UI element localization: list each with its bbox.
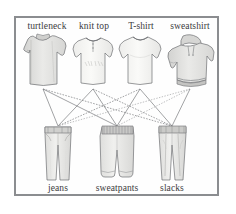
label-sweatpants: sweatpants [85,183,149,193]
garment-sweatpants [100,126,134,177]
figure-artwork [0,0,236,214]
outfit-combination-figure: turtleneck knit top T-shirt sweatshirt j… [0,0,236,214]
label-slacks: slacks [147,183,197,193]
edge-knittop-sweatpants [93,89,117,126]
label-sweatshirt: sweatshirt [159,21,221,31]
garment-jeans [45,127,71,180]
edge-tshirt-jeans [58,89,140,126]
garment-tshirt [119,37,161,85]
edge-sweatshirt-sweatpants [117,89,190,126]
edge-tshirt-sweatpants [117,89,140,126]
edge-turtleneck-sweatpants [43,89,117,126]
edge-group [43,89,190,126]
edge-sweatshirt-jeans [58,89,190,126]
edge-turtleneck-slacks [43,89,172,126]
edge-turtleneck-jeans [43,89,58,126]
label-jeans: jeans [32,183,84,193]
edge-tshirt-slacks [140,89,172,126]
garment-turtleneck [24,34,66,86]
edge-sweatshirt-slacks [172,89,190,126]
garment-knit-top [73,38,113,85]
garment-sweatshirt [168,35,214,87]
garment-slacks [159,126,186,180]
